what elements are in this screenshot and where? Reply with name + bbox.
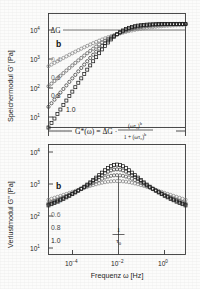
figure-container: Speichermodul G' [Pa] 104 103 102 101 ΔG… [0, 0, 200, 289]
xtick-1e0: 100 [158, 259, 168, 267]
upper-ytick-1: 101 [30, 113, 40, 121]
lower-data-series-group [47, 163, 187, 207]
lower-ytick-group: 104 103 102 101 [30, 148, 53, 252]
lower-panel-letter: b [56, 181, 61, 191]
xaxis-label: Frequenz ω [Hz] [91, 271, 144, 280]
upper-yaxis-label: Speichermodul G' [Pa] [6, 50, 15, 122]
equation-fraction: (ωτ₀)b 1 + (ωτ₀)b [118, 121, 153, 140]
lower-ytick-2: 102 [30, 212, 40, 220]
xtick-1e-4: 10−4 [65, 259, 78, 267]
equation-numerator: (ωτ₀)b [128, 121, 143, 129]
lower-yaxis-label: Verlustmodul G'' [Pa] [6, 181, 15, 248]
lower-ytick-1: 101 [30, 244, 40, 252]
lower-legend-0.6: 0.6 [51, 211, 61, 218]
lower-legend-0.8: 0.8 [51, 224, 61, 231]
loss-modulus-panel: Verlustmodul G'' [Pa] 104 103 102 101 10… [6, 145, 187, 281]
series-b-1.0 [47, 163, 187, 207]
equation-row: G*(ω) = ΔG · (ωτ₀)b 1 + (ωτ₀)b [49, 121, 186, 140]
upper-panel-letter: b [56, 39, 61, 49]
upper-ytick-group: 104 103 102 101 [30, 26, 53, 121]
series-b-0.6 [47, 174, 187, 205]
storage-modulus-panel: Speichermodul G' [Pa] 104 103 102 101 ΔG… [6, 14, 187, 130]
upper-ytick-4: 104 [30, 26, 40, 34]
modulus-figure: Speichermodul G' [Pa] 104 103 102 101 ΔG… [0, 0, 200, 289]
equation-lhs: G*(ω) = ΔG · [75, 127, 117, 136]
upper-legend-1.0: 1.0 [66, 106, 76, 113]
xtick-1e-2: 10−2 [111, 259, 124, 267]
series-b-1.0 [47, 22, 187, 129]
upper-data-series-group [47, 22, 187, 129]
lower-xtick-group: 10−4 10−2 100 [65, 250, 168, 267]
lower-legend-1.0: 1.0 [51, 237, 61, 244]
lower-ytick-4: 104 [30, 148, 40, 156]
delta-g-label: ΔG [51, 26, 62, 35]
upper-ytick-2: 102 [30, 84, 40, 92]
upper-ytick-3: 103 [30, 55, 40, 63]
lower-ytick-3: 103 [30, 180, 40, 188]
tau0-numerator: 1 [117, 226, 121, 234]
equation-denominator: 1 + (ωτ₀)b [124, 132, 147, 140]
